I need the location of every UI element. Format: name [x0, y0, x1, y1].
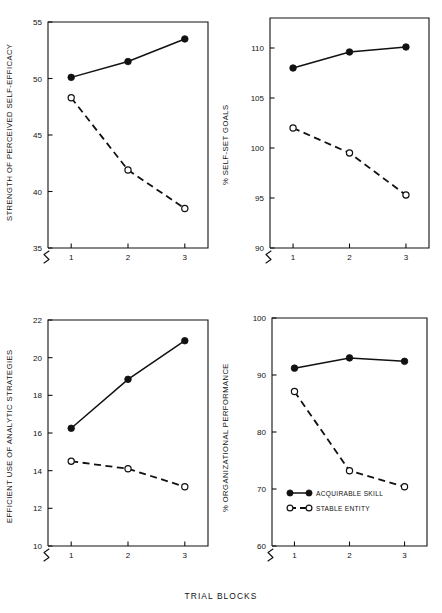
panel-organizational-performance: % ORGANIZATIONAL PERFORMANCE 60708090100…: [221, 300, 442, 580]
data-point-stable-entity: [125, 167, 131, 173]
data-point-stable-entity: [290, 125, 296, 131]
y-tick-label: 90: [255, 244, 264, 253]
data-point-acquirable-skill: [401, 358, 408, 365]
series-line-stable-entity: [71, 98, 185, 209]
plot-area-top-right: 9095100105110123: [221, 0, 442, 290]
data-point-acquirable-skill: [346, 355, 353, 362]
legend-marker: [306, 490, 312, 496]
plot-frame: [48, 22, 208, 248]
y-tick-label: 16: [33, 429, 42, 438]
series-line-acquirable-skill: [71, 341, 185, 429]
x-tick-label: 3: [183, 253, 188, 262]
plot-area-bottom-left: 10121416182022123: [0, 300, 221, 580]
data-point-stable-entity: [182, 484, 188, 490]
y-tick-label: 45: [33, 131, 42, 140]
y-tick-label: 20: [33, 354, 42, 363]
data-point-stable-entity: [403, 192, 409, 198]
y-tick-label: 105: [251, 94, 265, 103]
series-line-stable-entity: [71, 461, 185, 486]
data-point-acquirable-skill: [125, 58, 132, 65]
x-tick-label: 1: [69, 253, 74, 262]
data-point-acquirable-skill: [403, 44, 410, 51]
plot-frame: [272, 318, 427, 546]
data-point-stable-entity: [68, 458, 74, 464]
data-point-acquirable-skill: [346, 49, 353, 56]
y-tick-label: 35: [33, 244, 42, 253]
figure-four-panel-line-charts: STRENGTH OF PERCEIVED SELF-EFFICACY 3540…: [0, 0, 442, 613]
y-tick-label: 10: [33, 542, 42, 551]
data-point-acquirable-skill: [182, 36, 189, 43]
y-tick-label: 22: [33, 316, 42, 325]
data-point-stable-entity: [346, 150, 352, 156]
y-tick-label: 90: [257, 371, 266, 380]
data-point-stable-entity: [125, 466, 131, 472]
y-axis-label-top-left: STRENGTH OF PERCEIVED SELF-EFFICACY: [6, 14, 14, 250]
y-tick-label: 14: [33, 467, 42, 476]
y-tick-label: 50: [33, 75, 42, 84]
data-point-stable-entity: [68, 95, 74, 101]
y-tick-label: 55: [33, 18, 42, 27]
y-axis-break-icon: [266, 251, 271, 263]
x-tick-label: 3: [404, 253, 409, 262]
legend-item-acquirable-skill: ACQUIRABLE SKILL: [287, 490, 383, 498]
x-tick-label: 2: [347, 551, 352, 560]
legend-item-stable-entity: STABLE ENTITY: [287, 505, 370, 512]
data-point-stable-entity: [291, 388, 297, 394]
data-point-stable-entity: [346, 468, 352, 474]
data-point-stable-entity: [182, 205, 188, 211]
legend-label: STABLE ENTITY: [316, 505, 370, 512]
y-tick-label: 12: [33, 504, 42, 513]
y-tick-label: 70: [257, 485, 266, 494]
y-tick-label: 95: [255, 194, 264, 203]
data-point-acquirable-skill: [291, 365, 298, 372]
legend-marker: [306, 505, 312, 511]
x-tick-label: 2: [126, 253, 131, 262]
panel-analytic-strategies: EFFICIENT USE OF ANALYTIC STRATEGIES 101…: [0, 300, 221, 580]
x-tick-label: 2: [347, 253, 352, 262]
data-point-acquirable-skill: [125, 376, 132, 383]
legend-label: ACQUIRABLE SKILL: [316, 490, 383, 498]
data-point-acquirable-skill: [68, 74, 75, 81]
data-point-acquirable-skill: [290, 65, 297, 72]
y-tick-label: 100: [251, 144, 265, 153]
data-point-acquirable-skill: [68, 425, 75, 432]
y-tick-label: 18: [33, 391, 42, 400]
x-tick-label: 3: [402, 551, 407, 560]
plot-frame: [48, 320, 208, 546]
x-tick-label: 1: [292, 551, 297, 560]
y-axis-break-icon: [44, 549, 49, 561]
y-axis-break-icon: [268, 549, 273, 561]
x-axis-title: TRIAL BLOCKS: [0, 591, 442, 601]
x-tick-label: 1: [291, 253, 296, 262]
legend-marker: [287, 505, 293, 511]
y-axis-label-bottom-right: % ORGANIZATIONAL PERFORMANCE: [222, 324, 230, 552]
plot-area-bottom-right: 60708090100123ACQUIRABLE SKILLSTABLE ENT…: [221, 300, 442, 580]
y-tick-label: 40: [33, 188, 42, 197]
y-tick-label: 60: [257, 542, 266, 551]
y-axis-label-bottom-left: EFFICIENT USE OF ANALYTIC STRATEGIES: [6, 318, 14, 554]
data-point-acquirable-skill: [182, 337, 189, 344]
panel-perceived-self-efficacy: STRENGTH OF PERCEIVED SELF-EFFICACY 3540…: [0, 0, 221, 290]
panel-self-set-goals: % SELF-SET GOALS 9095100105110123: [221, 0, 442, 290]
x-tick-label: 2: [126, 551, 131, 560]
series-line-stable-entity: [293, 128, 406, 195]
y-axis-break-icon: [44, 251, 49, 263]
legend-marker: [287, 490, 293, 496]
data-point-stable-entity: [401, 484, 407, 490]
y-tick-label: 80: [257, 428, 266, 437]
y-tick-label: 100: [253, 314, 267, 323]
y-tick-label: 110: [251, 44, 264, 53]
x-tick-label: 1: [69, 551, 74, 560]
plot-area-top-left: 3540455055123: [0, 0, 221, 290]
y-axis-label-top-right: % SELF-SET GOALS: [222, 60, 230, 230]
x-tick-label: 3: [183, 551, 188, 560]
